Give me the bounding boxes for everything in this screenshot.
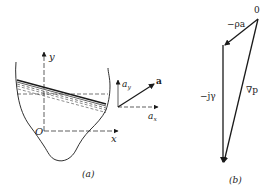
free-surface — [17, 80, 106, 113]
origin-label: O — [35, 127, 43, 137]
x-axis-label: x — [111, 134, 117, 144]
accel-y-label: ay — [122, 80, 131, 90]
caption-b: (b) — [229, 176, 242, 185]
y-axis-label: y — [49, 52, 55, 62]
container-outline — [16, 62, 110, 161]
caption-a: (a) — [82, 170, 94, 179]
grad-p-label: ∇p — [246, 86, 258, 95]
origin-zero-label: 0 — [254, 6, 260, 15]
accel-x-label: ax — [148, 112, 157, 122]
j-gamma-label: −jγ — [200, 92, 216, 101]
accel-vector-label: a — [156, 77, 162, 86]
rho-a-label: −ρa — [227, 20, 245, 29]
figure-canvas — [0, 0, 268, 195]
